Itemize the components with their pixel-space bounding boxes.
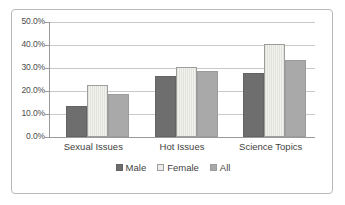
y-axis-tick-label: 10.0% xyxy=(12,109,45,118)
bar-all-sexual-issues xyxy=(108,94,129,137)
x-axis-line xyxy=(49,137,315,138)
bar-female-science-topics xyxy=(264,44,285,137)
x-axis-tick-label: Science Topics xyxy=(226,141,315,152)
plot-area xyxy=(49,22,314,137)
bar-all-science-topics xyxy=(285,60,306,137)
bar-male-sexual-issues xyxy=(66,106,87,137)
bar-group xyxy=(243,22,306,137)
legend-entry-all[interactable]: All xyxy=(210,162,231,173)
legend-swatch-male-icon xyxy=(116,164,123,171)
legend-label: All xyxy=(220,162,231,173)
bar-group xyxy=(155,22,218,137)
y-axis-tick-label: 50.0% xyxy=(12,17,45,26)
legend-swatch-female-icon xyxy=(157,164,164,171)
y-axis-tick-label: 20.0% xyxy=(12,86,45,95)
bar-female-hot-issues xyxy=(176,67,197,137)
chart-legend: MaleFemaleAll xyxy=(12,162,334,173)
y-axis-tick-label: 30.0% xyxy=(12,63,45,72)
x-axis-tick-label: Sexual Issues xyxy=(49,141,138,152)
legend-label: Male xyxy=(126,162,147,173)
y-axis-tick-label: 40.0% xyxy=(12,40,45,49)
bar-male-hot-issues xyxy=(155,76,176,137)
bar-female-sexual-issues xyxy=(87,85,108,137)
chart-container: 50.0%40.0%30.0%20.0%10.0%0.0% Sexual Iss… xyxy=(11,9,333,194)
legend-entry-male[interactable]: Male xyxy=(116,162,147,173)
x-axis-tick-label: Hot Issues xyxy=(138,141,227,152)
bar-group xyxy=(66,22,129,137)
legend-swatch-all-icon xyxy=(210,164,217,171)
legend-label: Female xyxy=(167,162,199,173)
bar-male-science-topics xyxy=(243,73,264,137)
bar-all-hot-issues xyxy=(197,71,218,137)
y-axis-tick-label: 0.0% xyxy=(12,132,45,141)
legend-entry-female[interactable]: Female xyxy=(157,162,199,173)
x-axis-labels: Sexual IssuesHot IssuesScience Topics xyxy=(49,141,315,157)
